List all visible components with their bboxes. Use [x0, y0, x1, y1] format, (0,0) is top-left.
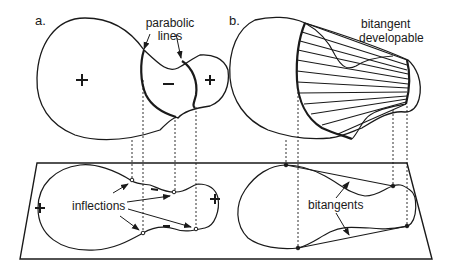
- parabolic-line-right: [182, 61, 196, 108]
- inflection-dot: [130, 178, 134, 182]
- panel-b-label: b.: [229, 14, 240, 27]
- inflection-dot: [141, 231, 145, 235]
- projection-lines-b: [286, 92, 407, 248]
- plus-sign-large-lobe: [76, 74, 88, 86]
- projection-lines-a: [132, 80, 196, 232]
- developable-right-edge: [406, 60, 409, 104]
- panel-a-surface: [37, 18, 228, 232]
- tangency-dot: [391, 184, 395, 188]
- panel-a-label: a.: [35, 14, 46, 27]
- plus-sign-small-lobe: [205, 75, 215, 85]
- surface-a-outline: [37, 18, 228, 140]
- panel-a-contour-signs: [35, 194, 220, 213]
- inflection-dot: [172, 190, 176, 194]
- tangency-dot: [296, 246, 300, 250]
- contour-a-outline: [38, 165, 218, 250]
- bitangents-label: bitangents: [308, 199, 363, 212]
- parabolic-lines-label-line2: lines: [150, 30, 190, 43]
- bitangent-developable-label-line1: bitangent: [361, 18, 410, 31]
- plus-sign-contour-left: [35, 203, 45, 213]
- tangency-dot: [284, 163, 288, 167]
- bitangent-developable-label-line2: developable: [359, 32, 424, 45]
- tangency-dot: [405, 224, 409, 228]
- panel-a-contour: [38, 165, 218, 250]
- developable-left-edge: [297, 23, 352, 139]
- panel-b-surface: [230, 17, 420, 248]
- inflection-dot: [194, 227, 198, 231]
- inflections-label: inflections: [72, 200, 125, 213]
- figure-diagram: a. parabolic lines inflections b. bitang…: [0, 0, 455, 272]
